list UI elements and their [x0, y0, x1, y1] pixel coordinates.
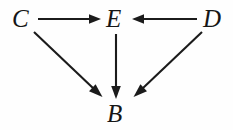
edge-line-d-to-b — [140, 32, 202, 91]
arrowhead-e-to-b — [111, 86, 121, 99]
edge-c-to-e — [38, 14, 101, 24]
edge-d-to-b — [134, 32, 203, 97]
node-label-c: C — [12, 6, 29, 31]
edge-line-c-to-b — [34, 32, 96, 91]
edge-d-to-e — [132, 14, 197, 24]
node-label-e: E — [106, 6, 121, 31]
causal-diagram: C E D B — [0, 0, 233, 130]
node-label-b: B — [107, 101, 122, 126]
edge-c-to-b — [34, 32, 103, 97]
arrowhead-d-to-e — [132, 14, 144, 24]
node-label-d: D — [203, 6, 221, 31]
edge-e-to-b — [111, 34, 121, 99]
arrowhead-c-to-e — [89, 14, 101, 24]
